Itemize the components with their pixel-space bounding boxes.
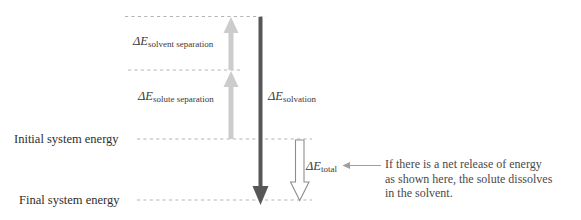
delta-e-subscript-total: total (321, 164, 337, 174)
delta-e-subscript-solvent: solvent separation (148, 39, 213, 49)
annotation-note: If there is a net release of energy as s… (385, 157, 581, 201)
arrow-solvation (253, 17, 269, 205)
annotation-line-1: If there is a net release of energy (385, 157, 581, 172)
annotation-pointer-arrow (343, 162, 382, 169)
delta-e-symbol-solute: ΔE (138, 89, 153, 103)
label-delta-e-solvent-separation: ΔEsolvent separation (133, 34, 213, 49)
delta-e-symbol-total: ΔE (306, 159, 321, 173)
label-delta-e-solute-separation: ΔEsolute separation (138, 89, 214, 104)
label-final-system-energy: Final system energy (19, 193, 119, 208)
label-delta-e-solvation: ΔEsolvation (268, 89, 316, 104)
label-initial-system-energy: Initial system energy (14, 132, 119, 147)
label-delta-e-total: ΔEtotal (306, 159, 337, 174)
arrow-solvent-separation (224, 17, 239, 70)
delta-e-subscript-solvation: solvation (283, 94, 316, 104)
delta-e-symbol-solvation: ΔE (268, 89, 283, 103)
delta-e-subscript-solute: solute separation (153, 94, 214, 104)
annotation-line-3: in the solvent. (385, 186, 581, 201)
arrow-solute-separation (224, 71, 239, 139)
annotation-line-2: as shown here, the solute dissolves (385, 172, 581, 187)
delta-e-symbol-solvent: ΔE (133, 34, 148, 48)
solvation-energy-diagram: ΔEsolvent separation ΔEsolute separation… (0, 0, 581, 220)
